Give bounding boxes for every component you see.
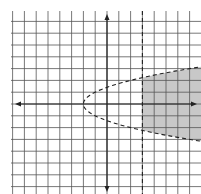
arrow-down-icon	[105, 186, 110, 192]
arrow-left-icon	[15, 102, 21, 107]
arrow-up-icon	[105, 14, 110, 20]
coordinate-plane	[0, 0, 201, 194]
